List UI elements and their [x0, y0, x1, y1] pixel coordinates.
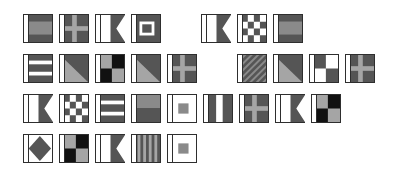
- flag-hoist: [96, 55, 101, 82]
- flag-hoist: [60, 135, 65, 162]
- signal-flag-quarters-black-icon: [95, 54, 125, 83]
- flag-hoist: [132, 15, 137, 42]
- flag-hoist: [312, 95, 317, 122]
- flag-hoist: [132, 95, 137, 122]
- signal-flag-quarters-black-icon: [311, 94, 341, 123]
- signal-flag-cross-icon: [59, 14, 89, 43]
- signal-flag-swallowtail-icon: [95, 134, 125, 163]
- signal-flag-white-center-square-icon: [167, 134, 197, 163]
- signal-flag-swallowtail-icon: [275, 94, 305, 123]
- signal-flag-checker-icon: [59, 94, 89, 123]
- flag-hoist: [274, 15, 279, 42]
- flag-hoist: [202, 15, 207, 42]
- flag-hoist: [60, 15, 65, 42]
- flag-hoist: [346, 55, 351, 82]
- signal-flag-horiz-stripes-icon: [23, 54, 53, 83]
- signal-flag-diagonal-icon: [273, 54, 303, 83]
- signal-flag-quarters-black-icon: [59, 134, 89, 163]
- flag-hoist: [168, 95, 173, 122]
- flag-hoist: [24, 15, 29, 42]
- signal-flag-cross-icon: [345, 54, 375, 83]
- flag-hoist: [24, 135, 29, 162]
- signal-flag-quarters-white-icon: [309, 54, 339, 83]
- flag-hoist: [168, 135, 173, 162]
- signal-flag-diag-stripes-icon: [237, 54, 267, 83]
- flag-hoist: [204, 95, 209, 122]
- signal-flag-swallowtail-icon: [95, 14, 125, 43]
- flag-hoist: [96, 95, 101, 122]
- signal-flag-vert-many-icon: [131, 134, 161, 163]
- flag-hoist: [238, 15, 243, 42]
- flag-hoist: [132, 135, 137, 162]
- flag-hoist: [96, 135, 101, 162]
- flag-hoist: [274, 55, 279, 82]
- signal-flag-horiz-dark-light-dark-icon: [273, 14, 303, 43]
- signal-flag-square-in-square-icon: [131, 14, 161, 43]
- flag-hoist: [96, 15, 101, 42]
- signal-flag-horiz-stripes-icon: [95, 94, 125, 123]
- signal-flag-diagonal-icon: [131, 54, 161, 83]
- signal-flag-cross-icon: [239, 94, 269, 123]
- flag-hoist: [240, 95, 245, 122]
- flag-hoist: [276, 95, 281, 122]
- signal-flag-diagonal-icon: [59, 54, 89, 83]
- flag-hoist: [24, 55, 29, 82]
- signal-flag-swallowtail-icon: [23, 94, 53, 123]
- flag-hoist: [24, 95, 29, 122]
- signal-flag-horiz-dark-light-dark-icon: [23, 14, 53, 43]
- flag-hoist: [60, 95, 65, 122]
- signal-flag-horiz-two-icon: [131, 94, 161, 123]
- flag-hoist: [310, 55, 315, 82]
- signal-flag-diamond-icon: [23, 134, 53, 163]
- signal-flag-swallowtail-icon: [201, 14, 231, 43]
- signal-flag-vert-stripes-icon: [203, 94, 233, 123]
- signal-flag-cross-icon: [167, 54, 197, 83]
- flag-hoist: [60, 55, 65, 82]
- flag-hoist: [132, 55, 137, 82]
- signal-flag-checker-icon: [237, 14, 267, 43]
- flag-hoist: [168, 55, 173, 82]
- flag-hoist: [238, 55, 243, 82]
- signal-flag-white-center-square-icon: [167, 94, 197, 123]
